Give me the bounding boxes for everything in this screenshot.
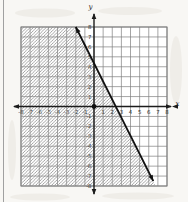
x-tick-label: 7 <box>156 109 159 115</box>
x-tick-label: 4 <box>129 109 133 115</box>
x-axis-label: x <box>176 100 180 108</box>
x-tick-label: 6 <box>147 109 151 115</box>
y-tick-label: 6 <box>88 44 92 50</box>
y-tick-label: 7 <box>88 34 91 40</box>
x-tick-label: 8 <box>165 109 169 115</box>
y-axis-label: y <box>88 3 94 11</box>
x-tick-label: 5 <box>138 109 141 115</box>
page-background: -8-7-6-5-4-3-2-112345678-8-7-6-5-4-3-2-1… <box>0 0 188 202</box>
y-tick-label: 8 <box>88 24 92 30</box>
inequality-graph-canvas: -8-7-6-5-4-3-2-112345678-8-7-6-5-4-3-2-1… <box>0 0 188 202</box>
origin-point <box>92 104 97 109</box>
